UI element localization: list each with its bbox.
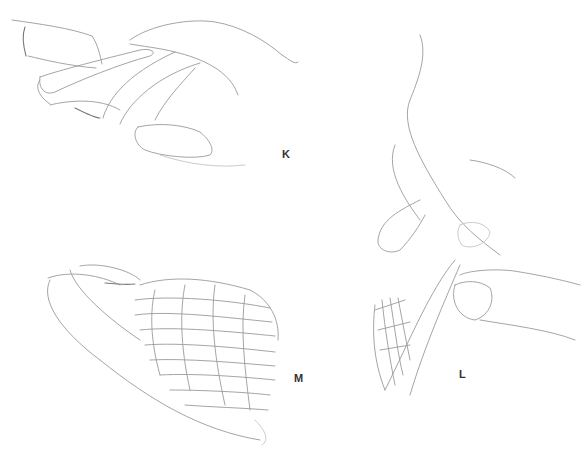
pencil-illustration (0, 0, 585, 454)
panel-label-k: K (282, 148, 290, 160)
panel-k-drawing (12, 20, 298, 166)
panel-label-m: M (294, 372, 303, 384)
panel-l-drawing (374, 35, 580, 395)
panel-m-drawing (47, 265, 278, 445)
panel-label-l: L (459, 368, 466, 380)
